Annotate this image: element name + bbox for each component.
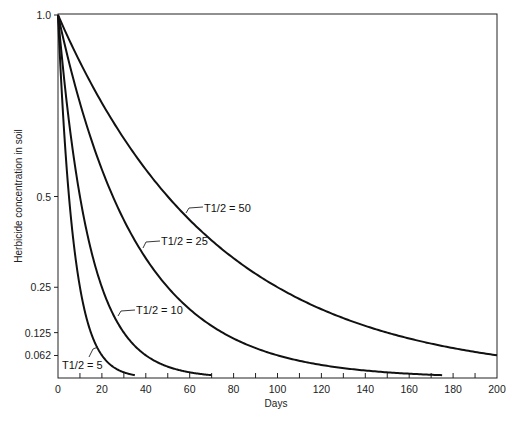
x-tick-label: 120 <box>313 383 331 395</box>
x-tick-label: 40 <box>140 383 152 395</box>
x-axis-title: Days <box>265 398 288 409</box>
x-axis: 020406080100120140160180200 <box>55 373 506 395</box>
x-tick-label: 160 <box>400 383 418 395</box>
y-tick-label: 0.5 <box>36 191 51 203</box>
decay-curve <box>58 15 497 355</box>
curve-label: T1/2 = 50 <box>204 202 251 214</box>
x-tick-label: 0 <box>55 383 61 395</box>
x-tick-label: 140 <box>357 383 375 395</box>
decay-curves <box>58 15 497 375</box>
decay-chart: 020406080100120140160180200 1.00.50.250.… <box>0 0 517 426</box>
y-tick-label: 1.0 <box>36 9 51 21</box>
label-leader-line <box>118 310 135 316</box>
y-axis-title: Herbicide concentration in soil <box>13 129 24 262</box>
curve-label: T1/2 = 25 <box>161 235 208 247</box>
x-tick-label: 200 <box>488 383 506 395</box>
plot-border <box>58 14 497 378</box>
x-tick-label: 100 <box>269 383 287 395</box>
x-tick-label: 20 <box>96 383 108 395</box>
x-tick-label: 180 <box>444 383 462 395</box>
x-tick-label: 80 <box>228 383 240 395</box>
label-leader-line <box>143 241 160 248</box>
curve-labels: T1/2 = 5T1/2 = 10T1/2 = 25T1/2 = 50 <box>62 202 251 371</box>
decay-curve <box>58 15 212 375</box>
y-tick-label: 0.062 <box>25 349 51 361</box>
y-tick-label: 0.25 <box>31 281 52 293</box>
decay-curve <box>58 15 135 375</box>
y-tick-label: 0.125 <box>25 327 51 339</box>
y-axis: 1.00.50.250.1250.062 <box>25 9 58 361</box>
curve-label: T1/2 = 10 <box>136 304 183 316</box>
plot-frame <box>58 14 497 378</box>
x-tick-label: 60 <box>184 383 196 395</box>
label-leader-line <box>186 207 203 213</box>
curve-label: T1/2 = 5 <box>62 359 103 371</box>
